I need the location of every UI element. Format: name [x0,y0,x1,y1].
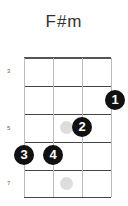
finger-dot: 3 [14,145,34,165]
fret-label: 3 [7,68,10,74]
fret-line [24,197,111,198]
fret-label: 7 [7,180,10,186]
string-line [53,58,54,197]
fret-line [24,170,111,171]
finger-dot: 2 [72,117,92,137]
fret-label: 5 [7,125,10,131]
finger-dot: 1 [105,90,125,110]
chord-title: F#m [0,12,128,32]
string-line [111,58,112,197]
finger-dot: 4 [43,145,63,165]
fret-line [24,86,111,87]
fret-line [24,142,111,143]
fret-line [24,57,111,59]
ghost-marker [60,177,73,190]
fret-line [24,114,111,115]
string-line [24,58,25,197]
